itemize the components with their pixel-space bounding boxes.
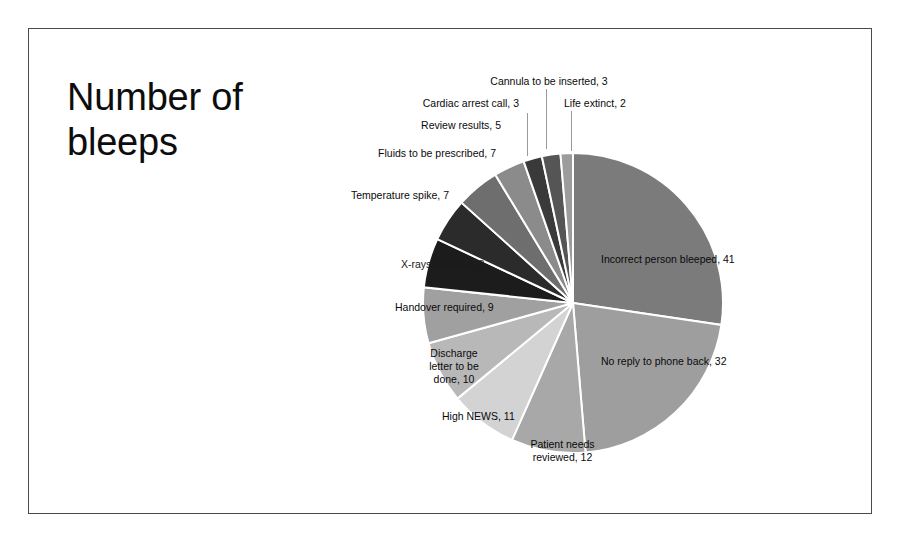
pie-chart[interactable]: Cannula to be inserted, 3 Cardiac arrest… — [29, 29, 873, 515]
slide-frame: Number of bleeps Cannula to be inserted,… — [28, 28, 872, 514]
pie-slice[interactable] — [573, 153, 723, 325]
pie-slice[interactable] — [573, 303, 721, 452]
pie-label-handover-required: Handover required, 9 — [395, 301, 545, 314]
pie-label-review-results: Review results, 5 — [339, 119, 501, 132]
pie-label-incorrect-person-bleeped: Incorrect person bleeped, 41 — [601, 253, 791, 266]
pie-label-x-rays-required: X-rays required, 8 — [401, 258, 531, 271]
pie-label-no-reply-to-phone-back: No reply to phone back, 32 — [601, 355, 791, 368]
pie-label-high-news: High NEWS, 11 — [442, 410, 552, 423]
pie-label-cardiac-arrest-call: Cardiac arrest call, 3 — [369, 97, 519, 110]
pie-label-temperature-spike: Temperature spike, 7 — [279, 189, 449, 202]
pie-label-life-extinct: Life extinct, 2 — [564, 97, 694, 110]
leader-line-life-extinct — [571, 111, 572, 151]
pie-label-patient-needs-reviewed: Patient needs reviewed, 12 — [510, 438, 615, 464]
leader-line-cardiac — [527, 113, 528, 156]
leader-line-cannula — [546, 89, 547, 149]
pie-label-discharge-letter-to-be-done: Discharge letter to be done, 10 — [407, 347, 501, 387]
pie-label-fluids-to-be-prescribed: Fluids to be prescribed, 7 — [279, 147, 496, 160]
pie-label-cannula-to-be-inserted: Cannula to be inserted, 3 — [459, 75, 639, 88]
